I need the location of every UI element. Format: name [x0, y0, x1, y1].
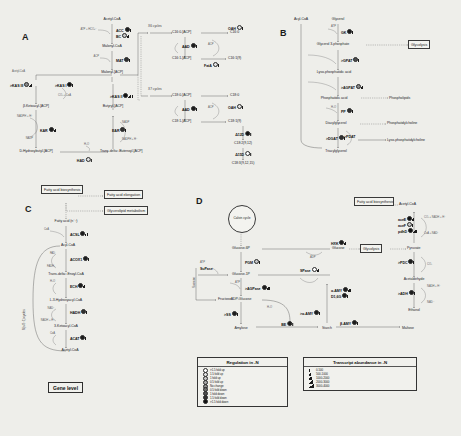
enzyme-pdhd-label: pdhD	[398, 230, 407, 234]
box-glycolysis-b: Glycolysis	[408, 40, 430, 49]
node-sucrose: Sucrose	[192, 277, 196, 288]
cofactor-nad-d: NAD⁺	[427, 300, 434, 304]
enzyme-oah-2: OAH	[228, 104, 242, 110]
panel-letter-c: C	[25, 204, 32, 214]
enzyme-mat: MAT	[116, 57, 130, 63]
abundance-bars	[259, 261, 260, 264]
enzyme-ss-label: SS	[226, 313, 231, 317]
enzyme-pdat: >PDAT	[344, 135, 355, 139]
cofactor-h2o-d: H₂O	[267, 306, 272, 309]
enzyme-ear-label: EAR	[112, 129, 119, 133]
box-fatty-acid-biosynthesis-c: Fatty acid biosynthesis	[41, 185, 83, 194]
node-pyruvate: Pyruvate	[407, 246, 420, 250]
node-l-3-hydroxyacyl-coa: L-3-Hydroxyacyl-CoA	[50, 298, 82, 302]
node-glycerol-3-phosphate: Glycerol 3-phosphate	[317, 42, 349, 46]
enzyme-acox1: ACOX1	[70, 256, 89, 262]
abundance-bars	[242, 106, 243, 109]
enzyme-pp-label: PP	[341, 110, 346, 114]
node-c18-2: C18:2(9,12)	[234, 141, 252, 145]
enzyme-dgat: >DGAT	[326, 135, 344, 141]
abundance-bars	[292, 323, 293, 326]
node-fatty-acid: Fatty acid (n⁻²)	[55, 219, 78, 223]
enzyme-kas3: >KAS III	[10, 82, 32, 88]
abundance-bars	[352, 110, 353, 113]
cofactor-coa-c1: CoA	[44, 228, 49, 231]
abundance-bars	[250, 133, 251, 136]
gene-level-box: Gene level	[48, 382, 83, 393]
cofactor-nadh: NADH + H⁺	[41, 318, 55, 322]
cofactor-nadp-1: NADP	[26, 137, 33, 140]
enzyme-pgm-label: PGM	[245, 261, 253, 265]
node-ethanol: Ethanol	[408, 308, 420, 312]
node-c18-1-acp: C18:1-[ACP]	[172, 119, 191, 123]
abundance-bars	[309, 373, 311, 376]
panel-letter-d: D	[196, 196, 203, 206]
node-fructose: Fructose	[218, 297, 231, 301]
abundance-bars	[72, 84, 73, 87]
abundance-bars	[309, 380, 313, 383]
node-triacylglycerol: Triacylglycerol	[325, 149, 347, 153]
enzyme-mat-label: MAT	[116, 59, 123, 63]
enzyme-acat: ACAT	[70, 335, 86, 341]
node-acyl-coa-c: Acyl-CoA	[61, 243, 75, 247]
enzyme-gpat-label: GPAT	[343, 59, 352, 63]
swatch	[203, 399, 210, 404]
box-glycolysis-d: Glycolysis	[360, 244, 382, 253]
enzyme-spase: SPase	[300, 267, 318, 273]
legend-abundance-title: Transcript abundance in -N	[304, 358, 416, 367]
legend-regulation-rows: >1.5 fold up 1.5 fold up 1 fold up 0.5 f…	[198, 367, 287, 406]
cofactor-acp-1: ACP	[94, 55, 99, 58]
enzyme-pdhd: pdhD	[398, 228, 417, 234]
node-phosphatidic-acid: Phosphatidic acid	[321, 96, 348, 100]
enzyme-kas1-label: KAS I	[57, 84, 66, 88]
enzyme-be-label: BE	[281, 323, 286, 327]
node-malonyl-coa: Malonyl-CoA	[102, 44, 122, 48]
enzyme-bc-label: BC	[116, 35, 121, 39]
node-c18-1-9: C18:1(9)	[228, 119, 241, 123]
panel-letter-b: B	[280, 28, 287, 38]
abundance-bars	[412, 218, 414, 221]
node-maltose: Maltose	[402, 326, 414, 330]
node-butyryl-acp: Butyryl-[ACP]	[103, 104, 123, 108]
box-fatty-acid-biosynthesis-d: Fatty acid biosynthesis	[354, 197, 394, 206]
enzyme-pdc: >PDC	[398, 259, 414, 265]
enzyme-fata-label: FatA	[204, 64, 212, 68]
box-glycerolipid-metabolism: Glycerolipid metabolism	[104, 206, 148, 215]
enzyme-fata-1: FatA	[204, 62, 218, 68]
swatch	[309, 377, 316, 380]
enzyme-beta-amy-label: β-AMY	[340, 322, 351, 326]
enzyme-aad-1: AAD	[182, 43, 196, 49]
abundance-bars	[344, 242, 346, 245]
enzyme-aad-2: AAD	[182, 106, 196, 112]
abundance-bars	[250, 153, 251, 156]
enzyme-acat-label: ACAT	[70, 337, 80, 341]
enzyme-kar-label: KAR	[40, 129, 48, 133]
enzyme-acsl: ACSL	[70, 231, 87, 237]
cycle-count-label: X(n/2−1) cycles	[22, 309, 26, 330]
enzyme-aad-label: AAD	[182, 45, 190, 49]
abundance-bars	[86, 311, 87, 314]
node-glucose: Glucose	[332, 246, 345, 250]
enzyme-delta15d: Δ15D	[235, 151, 251, 157]
enzyme-gk: GK	[341, 29, 353, 35]
enzyme-supase-label: SuPase	[200, 267, 213, 271]
node-lyso-phosphatidic-acid: Lyso-phosphatidic acid	[317, 70, 351, 74]
cofactor-udp: ATP	[200, 261, 205, 264]
abundance-bars	[413, 230, 417, 233]
node-malonyl-acp: Malonyl-[ACP]	[101, 70, 123, 74]
enzyme-agpat: >AGPAT	[341, 84, 363, 90]
legend-abundance-rows: 0-500 500-1000 1000-2000 2000-3000 3000-…	[304, 367, 416, 390]
enzyme-ss: >SS	[224, 311, 237, 317]
node-adp-glucose: ADP-Glucose	[231, 297, 252, 301]
enzyme-delta12d: Δ12D	[235, 131, 251, 137]
enzyme-ear: EAR	[112, 127, 126, 133]
enzyme-oah-label: OAH	[228, 106, 236, 110]
enzyme-kar: KAR	[40, 127, 55, 133]
node-phosphatidylcholine: Phosphatidylcholine	[387, 121, 417, 125]
cofactor-nad: NAD⁺	[48, 306, 55, 310]
abundance-bars	[357, 322, 358, 325]
enzyme-beta-amy: β-AMY	[340, 320, 358, 326]
abundance-bars	[414, 292, 415, 295]
cofactor-acetyl-coa-branch: Acetyl-CoA	[12, 70, 25, 73]
legend-label: 3000-4000	[316, 384, 329, 388]
